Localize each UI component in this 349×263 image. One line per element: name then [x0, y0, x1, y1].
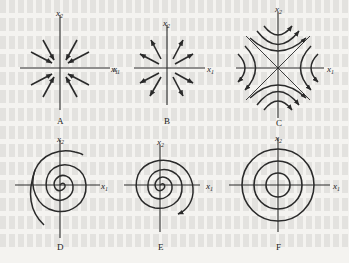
panel-a-y-axis-label: x2 [55, 8, 63, 19]
panel-c [236, 12, 324, 118]
panel-e-y-axis-label: x2 [156, 137, 164, 148]
panel-d-x-axis-label: x1 [100, 181, 108, 192]
panel-e-x-axis-label: x1 [205, 181, 213, 192]
panel-e-label: E [158, 242, 164, 252]
panel-a-label: A [57, 116, 64, 126]
panel-f-x-axis-label: x1 [332, 181, 340, 192]
panel-f [229, 138, 330, 232]
panel-d-y-axis-label: x2 [56, 134, 64, 145]
panel-c-x-axis-label: x1 [326, 64, 334, 75]
panel-b-x-axis-label-left: x1 [112, 64, 120, 75]
phase-portraits-figure: x2 x1 A x2 x1 x1 B [0, 0, 349, 263]
panel-b-label: B [164, 116, 170, 126]
panel-b-x-axis-label: x1 [206, 64, 214, 75]
panel-b [134, 25, 205, 105]
panel-d-label: D [57, 242, 64, 252]
panel-f-y-axis-label: x2 [274, 133, 282, 144]
panel-a [20, 15, 110, 110]
panel-f-label: F [276, 242, 281, 252]
panel-c-label: C [276, 118, 282, 128]
panel-c-y-axis-label: x2 [274, 4, 282, 15]
panel-e [124, 145, 200, 232]
panel-d [15, 140, 100, 238]
panel-b-y-axis-label: x2 [162, 18, 170, 29]
